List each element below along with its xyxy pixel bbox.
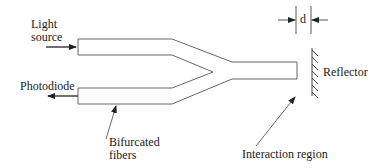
distance-label: d [300,13,306,26]
bifurcated-label-line2: fibers [109,149,160,162]
interaction-region-label: Interaction region [242,148,328,161]
light-source-label-line2: source [31,31,62,44]
reflector-label: Reflector [323,66,368,79]
photodiode-label: Photodiode [20,80,75,93]
interaction-region-pointer-arrow [256,97,295,146]
reflector-icon [312,48,318,98]
light-source-label: Light source [31,18,62,44]
bifurcated-fiber [78,39,297,104]
bifurcated-fibers-label: Bifurcated fibers [109,136,160,162]
